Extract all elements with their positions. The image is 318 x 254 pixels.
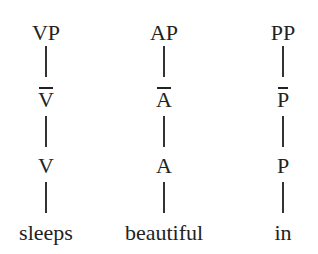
branch-line xyxy=(282,182,283,213)
tree-ap: AP A A beautiful xyxy=(109,0,219,254)
bar-node: V xyxy=(0,89,101,111)
phrase-node: VP xyxy=(0,22,101,44)
bar-node: A xyxy=(109,89,219,111)
tree-pp: PP P P in xyxy=(228,0,318,254)
branch-line xyxy=(163,46,164,77)
branch-line xyxy=(45,46,46,77)
terminal-word: in xyxy=(228,222,318,244)
phrase-node: AP xyxy=(109,22,219,44)
overline xyxy=(278,87,288,89)
terminal-word: beautiful xyxy=(109,222,219,244)
branch-line xyxy=(282,116,283,147)
branch-line xyxy=(163,182,164,213)
phrase-node: PP xyxy=(228,22,318,44)
tree-vp: VP V V sleeps xyxy=(0,0,101,254)
overline xyxy=(157,87,171,89)
branch-line xyxy=(282,46,283,77)
head-node: P xyxy=(228,155,318,177)
branch-line xyxy=(45,116,46,147)
head-node: V xyxy=(0,155,101,177)
bar-node: P xyxy=(228,89,318,111)
overline xyxy=(39,87,53,89)
branch-line xyxy=(45,182,46,213)
head-node: A xyxy=(109,155,219,177)
branch-line xyxy=(163,116,164,147)
terminal-word: sleeps xyxy=(0,222,101,244)
